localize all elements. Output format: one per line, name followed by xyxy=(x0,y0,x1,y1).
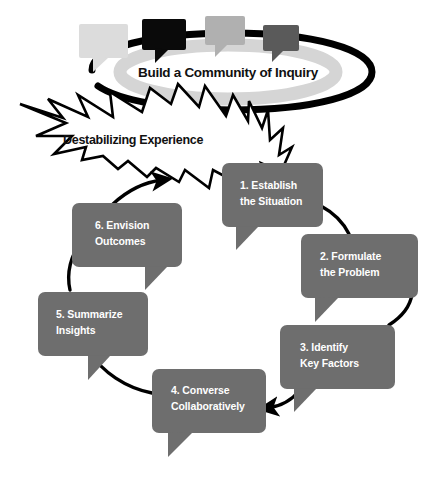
callout-step-3[interactable]: 3. Identify Key Factors xyxy=(280,325,395,412)
callout-step-2[interactable]: 2. Formulate the Problem xyxy=(301,234,418,322)
callout-step-6[interactable]: 6. Envision Outcomes xyxy=(72,203,182,290)
callout-step-4[interactable]: 4. Converse Collaboratively xyxy=(152,369,266,457)
banner-title: Build a Community of Inquiry xyxy=(138,65,319,80)
community-of-inquiry-diagram: Build a Community of Inquiry Destabilizi… xyxy=(0,0,438,480)
callout-step-6-line2: Outcomes xyxy=(95,235,146,247)
diagram-canvas: Build a Community of Inquiry Destabilizi… xyxy=(0,0,438,480)
callout-step-1-line2: the Situation xyxy=(240,195,302,207)
callout-step-3-line1: 3. Identify xyxy=(300,341,348,353)
callout-step-6-line1: 6. Envision xyxy=(95,219,149,231)
callout-step-5-tail xyxy=(88,355,110,380)
callout-step-4-line1: 4. Converse xyxy=(171,384,230,396)
callout-step-6-tail xyxy=(145,266,167,290)
callout-step-2-tail xyxy=(315,297,338,322)
callout-step-4-tail xyxy=(168,432,192,457)
arrow-step2-to-step3 xyxy=(389,294,412,325)
callout-step-4-line2: Collaboratively xyxy=(171,400,245,412)
callout-step-5[interactable]: 5. Summarize Insights xyxy=(38,292,148,380)
arrow-step6-to-burst xyxy=(113,180,162,204)
callout-step-3-tail xyxy=(294,388,316,412)
callout-step-3-line2: Key Factors xyxy=(300,357,359,369)
burst-label: Destabilizing Experience xyxy=(63,133,203,147)
callout-step-5-line2: Insights xyxy=(56,324,96,336)
callout-step-1-line1: 1. Establish xyxy=(240,179,297,191)
arrow-step1-to-step2 xyxy=(321,206,349,234)
callout-step-1-tail xyxy=(236,226,258,250)
callout-step-5-line1: 5. Summarize xyxy=(56,308,123,320)
callout-step-2-line1: 2. Formulate xyxy=(320,250,381,262)
callout-step-2-line2: the Problem xyxy=(320,266,380,278)
